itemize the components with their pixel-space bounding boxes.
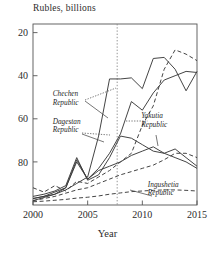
chart-figure: Rubles, billions 80604020200020052010201… [0,0,215,256]
leader-line [82,133,110,135]
leader-line [156,135,158,146]
y-tick-label: 60 [18,113,28,124]
plot-frame [33,24,197,205]
annotation-yakutia-republic: Republic [140,120,168,129]
annotation-ingushetia-republic: Republic [147,188,175,197]
x-tick-label: 2005 [78,209,98,220]
annotation-chechen-republic: Republic [52,98,80,107]
x-tick-label: 2010 [132,209,152,220]
x-tick-label: 2015 [187,209,207,220]
y-tick-label: 20 [18,27,28,38]
leader-line [85,88,116,100]
chart-canvas: 806040202000200520102015 ChechenRepublic… [0,0,215,256]
annotation-dagestan-republic: Republic [52,125,80,134]
y-tick-label: 40 [18,70,28,81]
x-axis-title: Year [0,228,215,239]
x-tick-label: 2000 [23,209,43,220]
y-tick-label: 80 [18,157,28,168]
leader-line [82,134,104,142]
